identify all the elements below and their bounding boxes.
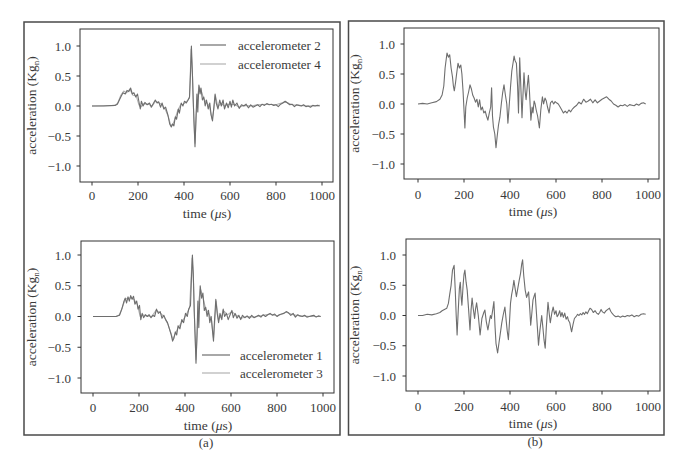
x-axis-label-unit: s) bbox=[547, 204, 557, 219]
plot-a-bottom: 020040060080010001.00.50.0−0.5−1.0time (… bbox=[24, 241, 336, 433]
x-tick-label: 200 bbox=[454, 187, 474, 202]
x-tick-label: 0 bbox=[415, 187, 422, 202]
x-tick-label: 800 bbox=[267, 400, 287, 415]
caption-b: (b) bbox=[527, 434, 542, 449]
x-tick-label: 800 bbox=[592, 187, 612, 202]
plot-a-top: 020040060080010001.00.50.0−0.5−1.0time (… bbox=[24, 29, 335, 221]
figure: 020040060080010001.00.50.0−0.5−1.0time (… bbox=[0, 0, 683, 464]
y-axis-label: acceleration (Kgn) bbox=[347, 54, 364, 153]
legend: accelerometer 1accelerometer 3 bbox=[202, 348, 323, 381]
y-axis-label: acceleration (Kgn) bbox=[347, 266, 364, 365]
x-tick-label: 400 bbox=[175, 400, 195, 415]
x-tick-label: 400 bbox=[174, 188, 194, 203]
x-axis-label-text: time ( bbox=[184, 418, 216, 433]
caption-a: (a) bbox=[199, 435, 213, 450]
axes-frame bbox=[406, 239, 660, 391]
series-line bbox=[418, 260, 646, 353]
y-tick-label: 0.0 bbox=[55, 99, 71, 114]
x-tick-label: 400 bbox=[500, 399, 520, 414]
x-tick-label: 600 bbox=[221, 400, 241, 415]
y-axis-label-text: acceleration (Kg bbox=[347, 63, 362, 153]
y-axis-label-close: ) bbox=[24, 56, 39, 61]
y-axis-label-text: acceleration (Kg bbox=[347, 274, 362, 364]
y-tick-label: 0.5 bbox=[379, 67, 395, 82]
x-axis-label-text: time ( bbox=[509, 416, 541, 431]
x-tick-label: 1000 bbox=[635, 399, 661, 414]
x-axis-label-text: time ( bbox=[509, 204, 541, 219]
x-axis-label: time (μs) bbox=[509, 204, 557, 219]
x-tick-label: 0 bbox=[89, 188, 96, 203]
y-tick-label: −0.5 bbox=[371, 127, 395, 142]
x-tick-label: 200 bbox=[128, 188, 148, 203]
series-line bbox=[418, 53, 646, 148]
x-axis-label: time (μs) bbox=[183, 206, 231, 221]
x-axis-label: time (μs) bbox=[184, 418, 232, 433]
x-tick-label: 200 bbox=[129, 400, 149, 415]
x-tick-label: 400 bbox=[500, 187, 520, 202]
x-tick-label: 200 bbox=[454, 399, 474, 414]
x-axis-label-unit: s) bbox=[222, 418, 232, 433]
y-tick-label: 1.0 bbox=[55, 39, 71, 54]
x-tick-label: 600 bbox=[220, 188, 240, 203]
legend-label: accelerometer 4 bbox=[238, 57, 321, 72]
y-tick-label: 0.0 bbox=[379, 97, 395, 112]
plot-b-top: 020040060080010001.00.50.0−0.5−1.0time (… bbox=[347, 28, 661, 219]
series-line bbox=[93, 258, 321, 360]
y-tick-label: −1.0 bbox=[47, 159, 71, 174]
x-axis-label-unit: s) bbox=[221, 206, 231, 221]
x-axis-label-unit: s) bbox=[547, 416, 557, 431]
y-tick-label: −0.5 bbox=[47, 340, 71, 355]
y-tick-label: 1.0 bbox=[379, 37, 395, 52]
x-tick-label: 600 bbox=[546, 187, 566, 202]
y-axis-label-text: acceleration (Kg bbox=[24, 65, 39, 155]
x-axis-label-text: time ( bbox=[183, 206, 215, 221]
legend: accelerometer 2accelerometer 4 bbox=[200, 38, 321, 72]
x-tick-label: 1000 bbox=[635, 187, 661, 202]
x-axis-label: time (μs) bbox=[509, 416, 557, 431]
x-tick-label: 600 bbox=[546, 399, 566, 414]
y-tick-label: 0.5 bbox=[55, 69, 71, 84]
y-axis-label-close: ) bbox=[347, 54, 362, 59]
x-tick-label: 800 bbox=[266, 188, 286, 203]
x-tick-label: 800 bbox=[592, 399, 612, 414]
plot-b-bottom: 020040060080010001.00.50.0−0.5−1.0time (… bbox=[347, 239, 661, 431]
y-tick-label: −1.0 bbox=[47, 371, 71, 386]
y-tick-label: 0.5 bbox=[55, 278, 71, 293]
figure-canvas: 020040060080010001.00.50.0−0.5−1.0time (… bbox=[0, 0, 683, 464]
legend-label: accelerometer 2 bbox=[238, 38, 321, 53]
x-tick-label: 0 bbox=[415, 399, 422, 414]
y-axis-label-close: ) bbox=[347, 266, 362, 271]
y-tick-label: −1.0 bbox=[371, 157, 395, 172]
y-axis-label: acceleration (Kgn) bbox=[24, 56, 41, 155]
axes-frame bbox=[404, 28, 659, 179]
plot-area bbox=[418, 53, 646, 148]
legend-label: accelerometer 1 bbox=[240, 348, 323, 363]
y-tick-label: 0.0 bbox=[380, 308, 396, 323]
y-axis-label-close: ) bbox=[24, 268, 39, 273]
x-tick-label: 0 bbox=[90, 400, 97, 415]
y-tick-label: 1.0 bbox=[55, 248, 71, 263]
x-tick-label: 1000 bbox=[310, 400, 336, 415]
y-tick-label: 0.0 bbox=[55, 309, 71, 324]
y-axis-label: acceleration (Kgn) bbox=[24, 268, 41, 367]
legend-label: accelerometer 3 bbox=[240, 366, 323, 381]
plot-area bbox=[418, 260, 646, 353]
y-tick-label: 1.0 bbox=[380, 248, 396, 263]
y-tick-label: −0.5 bbox=[372, 338, 396, 353]
y-tick-label: −0.5 bbox=[47, 129, 71, 144]
y-tick-label: 0.5 bbox=[380, 278, 396, 293]
y-tick-label: −1.0 bbox=[372, 369, 396, 384]
y-axis-label-text: acceleration (Kg bbox=[24, 276, 39, 366]
x-tick-label: 1000 bbox=[309, 188, 335, 203]
